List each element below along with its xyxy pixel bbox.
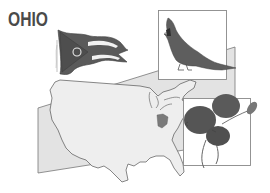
flower-icon — [184, 94, 260, 168]
bird-icon — [159, 11, 237, 80]
state-symbols-illustration — [0, 0, 270, 193]
flag-icon — [56, 30, 128, 75]
